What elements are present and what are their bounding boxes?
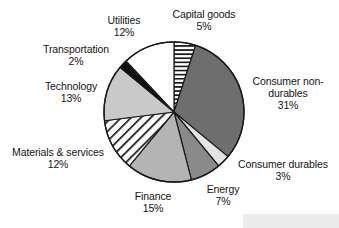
slice-label-energy: Energy 7% — [196, 183, 250, 207]
slice-label-transportation-name: Transportation — [43, 43, 109, 55]
slice-label-technology: Technology 13% — [32, 80, 110, 104]
slice-label-materials-services-value: 12% — [2, 158, 114, 170]
slice-label-utilities-name: Utilities — [108, 14, 141, 26]
scan-tint — [243, 214, 339, 228]
slice-label-finance-value: 15% — [122, 202, 184, 214]
slice-label-technology-value: 13% — [32, 92, 110, 104]
slice-label-capital-goods-name: Capital goods — [173, 8, 236, 20]
slice-label-finance: Finance 15% — [122, 190, 184, 214]
slice-label-consumer-durables-name: Consumer durables — [238, 158, 328, 170]
slice-label-transportation-value: 2% — [24, 55, 128, 67]
slice-label-utilities: Utilities 12% — [86, 14, 162, 38]
slice-label-technology-name: Technology — [45, 80, 97, 92]
slice-label-energy-name: Energy — [207, 183, 240, 195]
slice-label-capital-goods-value: 5% — [152, 20, 256, 32]
slice-label-consumer-nondurables-line2: durables — [240, 87, 336, 99]
slice-label-consumer-nondurables-line1: Consumer non- — [252, 75, 323, 87]
slice-label-consumer-nondurables-value: 31% — [240, 99, 336, 111]
slice-label-consumer-nondurables: Consumer non- durables 31% — [240, 75, 336, 112]
slice-label-consumer-durables-value: 3% — [230, 170, 336, 182]
slice-label-transportation: Transportation 2% — [24, 43, 128, 67]
slice-label-capital-goods: Capital goods 5% — [152, 8, 256, 32]
slice-label-materials-services-name: Materials & services — [12, 146, 104, 158]
slice-label-utilities-value: 12% — [86, 26, 162, 38]
slice-label-finance-name: Finance — [135, 190, 172, 202]
slice-label-materials-services: Materials & services 12% — [2, 146, 114, 170]
slice-label-consumer-durables: Consumer durables 3% — [230, 158, 336, 182]
slice-label-energy-value: 7% — [196, 195, 250, 207]
pie-chart-figure: Utilities 12% Capital goods 5% Transport… — [0, 0, 339, 228]
